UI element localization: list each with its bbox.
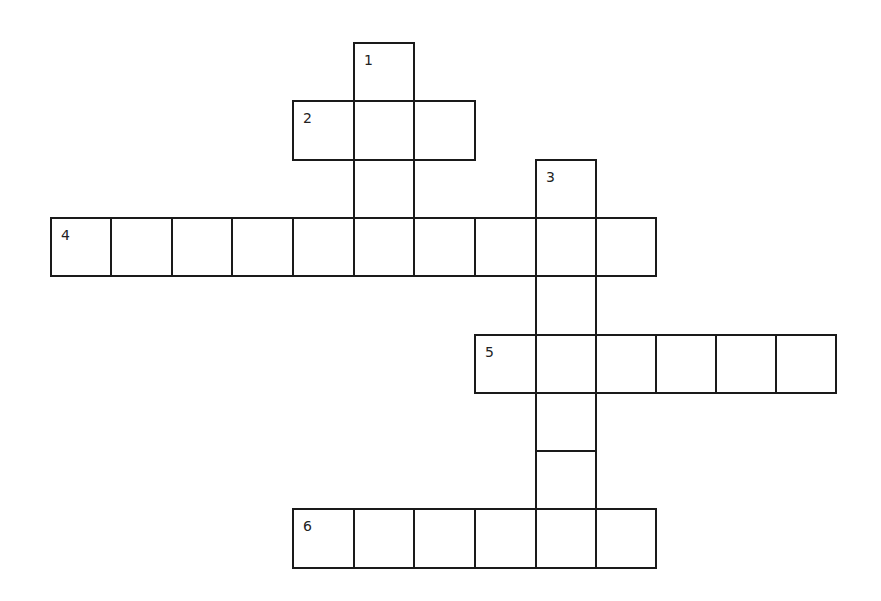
crossword-cell[interactable]	[110, 217, 173, 277]
crossword-cell[interactable]	[595, 508, 657, 569]
crossword-cell[interactable]	[231, 217, 294, 277]
crossword-cell[interactable]	[353, 217, 415, 277]
crossword-cell[interactable]	[715, 334, 777, 394]
crossword-cell[interactable]	[171, 217, 233, 277]
crossword-cell[interactable]: 6	[292, 508, 355, 569]
crossword-cell[interactable]	[353, 508, 415, 569]
crossword-cell[interactable]	[474, 508, 537, 569]
crossword-cell[interactable]	[353, 159, 415, 219]
crossword-cell[interactable]	[535, 392, 597, 452]
crossword-cell[interactable]	[292, 217, 355, 277]
crossword-cell[interactable]: 4	[50, 217, 112, 277]
clue-number: 2	[303, 111, 312, 125]
crossword-cell[interactable]	[595, 334, 657, 394]
clue-number: 4	[61, 228, 70, 242]
crossword-cell[interactable]	[413, 508, 476, 569]
crossword-cell[interactable]: 1	[353, 42, 415, 102]
crossword-cell[interactable]	[413, 100, 476, 161]
crossword-cell[interactable]	[595, 217, 657, 277]
crossword-cell[interactable]	[535, 275, 597, 336]
clue-number: 5	[485, 345, 494, 359]
crossword-cell[interactable]	[474, 217, 537, 277]
crossword-cell[interactable]: 2	[292, 100, 355, 161]
crossword-cell[interactable]	[535, 508, 597, 569]
crossword-cell[interactable]	[353, 100, 415, 161]
crossword-cell[interactable]: 3	[535, 159, 597, 219]
crossword-cell[interactable]	[535, 217, 597, 277]
crossword-cell[interactable]	[413, 217, 476, 277]
clue-number: 1	[364, 53, 373, 67]
crossword-cell[interactable]: 5	[474, 334, 537, 394]
crossword-cell[interactable]	[775, 334, 837, 394]
clue-number: 3	[546, 170, 555, 184]
crossword-cell[interactable]	[535, 450, 597, 510]
clue-number: 6	[303, 519, 312, 533]
crossword-cell[interactable]	[535, 334, 597, 394]
crossword-grid: 123456	[0, 0, 881, 601]
crossword-cell[interactable]	[655, 334, 717, 394]
